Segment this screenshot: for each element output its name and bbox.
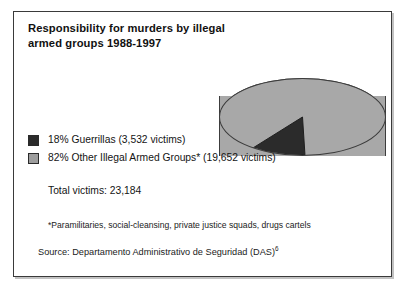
legend-label-other-groups: 82% Other Illegal Armed Groups* (19,652 …: [48, 152, 276, 164]
total-victims-label: Total victims: 23,184: [48, 185, 141, 197]
page-title: Responsibility for murders by illegal ar…: [28, 21, 278, 50]
legend: 18% Guerrillas (3,532 victims) 82% Other…: [28, 134, 308, 170]
legend-item-other-groups: 82% Other Illegal Armed Groups* (19,652 …: [28, 152, 308, 164]
legend-label-guerrillas: 18% Guerrillas (3,532 victims): [48, 134, 185, 146]
legend-item-guerrillas: 18% Guerrillas (3,532 victims): [28, 134, 308, 146]
legend-swatch-guerrillas: [28, 135, 39, 146]
source-text: Source: Departamento Administrativo de S…: [38, 247, 275, 257]
footnote-text: *Paramilitaries, social-cleansing, priva…: [48, 220, 311, 231]
title-line-2: armed groups 1988-1997: [28, 36, 278, 51]
figure-frame: Responsibility for murders by illegal ar…: [13, 11, 392, 277]
source-footnote-marker: 6: [275, 245, 279, 252]
source-line: Source: Departamento Administrativo de S…: [38, 247, 279, 258]
title-line-1: Responsibility for murders by illegal: [28, 21, 278, 36]
legend-swatch-other-groups: [28, 153, 39, 164]
